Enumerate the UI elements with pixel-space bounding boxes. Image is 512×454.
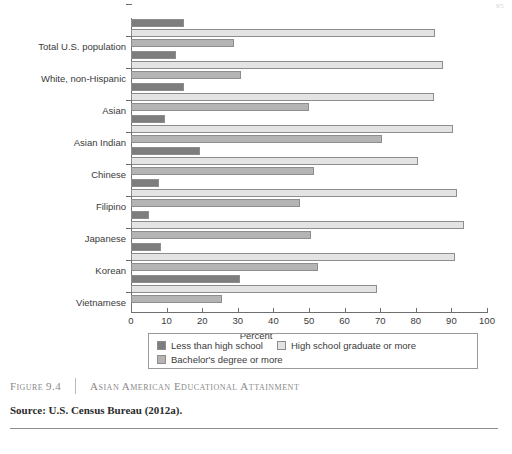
figure-caption: Figure 9.4 Asian American Educational At… — [10, 378, 502, 394]
bar — [131, 157, 418, 165]
y-axis-tick — [126, 260, 132, 261]
legend-label: Less than high school — [171, 340, 263, 351]
x-axis-tick — [309, 308, 310, 313]
x-axis-tick-label: 80 — [411, 315, 422, 326]
y-axis-tick — [126, 132, 132, 133]
y-axis-label: Asian Indian — [6, 137, 126, 148]
footer-rule — [10, 428, 498, 429]
figure-number: Figure 9.4 — [10, 380, 61, 392]
figure-title: Asian American Educational Attainment — [90, 380, 299, 392]
y-axis-labels: Total U.S. populationWhite, non-Hispanic… — [0, 28, 126, 328]
x-axis-tick-label: 20 — [197, 315, 208, 326]
y-axis-label: White, non-Hispanic — [6, 73, 126, 84]
x-axis-tick — [380, 308, 381, 313]
bar — [131, 167, 314, 175]
bar — [131, 125, 453, 133]
bar-group — [131, 242, 487, 274]
x-axis-tick — [451, 308, 452, 313]
bar — [131, 103, 309, 111]
y-axis-label: Filipino — [6, 201, 126, 212]
x-axis-tick — [167, 308, 168, 313]
x-axis-tick — [202, 308, 203, 313]
bar-group — [131, 82, 487, 114]
x-axis-tick — [345, 308, 346, 313]
y-axis-tick — [126, 36, 132, 37]
x-axis-tick-label: 50 — [304, 315, 315, 326]
figure-source: Source: U.S. Census Bureau (2012a). — [10, 404, 182, 416]
legend-swatch-icon — [277, 341, 286, 350]
bar — [131, 263, 318, 271]
y-axis-tick — [126, 228, 132, 229]
x-axis-tick — [273, 308, 274, 313]
legend-label: Bachelor's degree or more — [171, 354, 283, 365]
bar — [131, 135, 382, 143]
bar — [131, 189, 457, 197]
y-axis-label: Vietnamese — [6, 297, 126, 308]
bar — [131, 29, 435, 37]
y-axis-tick — [126, 100, 132, 101]
y-axis-label: Asian — [6, 105, 126, 116]
legend-row-1: Less than high school High school gradua… — [157, 338, 469, 352]
bar — [131, 115, 165, 123]
x-axis-tick-label: 90 — [446, 315, 457, 326]
figure-page: 95 Total U.S. populationWhite, non-Hispa… — [0, 0, 512, 454]
x-axis-tick — [416, 308, 417, 313]
x-axis-tick — [487, 308, 488, 313]
legend-swatch-icon — [157, 341, 166, 350]
x-axis-tick-label: 10 — [161, 315, 172, 326]
bar-group — [131, 18, 487, 50]
x-axis-tick — [238, 308, 239, 313]
legend-row-2: Bachelor's degree or more — [157, 352, 469, 366]
bar-chart: Total U.S. populationWhite, non-Hispanic… — [0, 14, 512, 314]
y-axis-label: Japanese — [6, 233, 126, 244]
x-axis-tick-label: 30 — [233, 315, 244, 326]
y-axis-label: Korean — [6, 265, 126, 276]
bar — [131, 243, 161, 251]
x-axis-tick-label: 0 — [128, 315, 133, 326]
bar-group — [131, 50, 487, 82]
x-axis-tick-label: 100 — [479, 315, 495, 326]
y-axis-label: Total U.S. population — [6, 41, 126, 52]
bar-group — [131, 146, 487, 178]
bar — [131, 285, 377, 293]
x-axis-tick — [131, 308, 132, 313]
bar-group — [131, 210, 487, 242]
bar — [131, 71, 241, 79]
bar — [131, 231, 311, 239]
bar — [131, 211, 149, 219]
legend-item-less-than-high-school: Less than high school — [157, 340, 263, 351]
bar-group — [131, 178, 487, 210]
bar — [131, 295, 222, 303]
y-axis-tick — [126, 68, 132, 69]
bar — [131, 199, 300, 207]
y-axis-tick — [126, 4, 132, 5]
bar — [131, 179, 159, 187]
bar-group — [131, 274, 487, 306]
legend-swatch-icon — [157, 355, 166, 364]
bar — [131, 19, 184, 27]
bar — [131, 93, 434, 101]
bar-group — [131, 114, 487, 146]
bar — [131, 253, 455, 261]
caption-divider — [75, 378, 76, 394]
legend-item-high-school-graduate-or-more: High school graduate or more — [277, 340, 416, 351]
y-axis-label: Chinese — [6, 169, 126, 180]
x-axis-tick-label: 40 — [268, 315, 279, 326]
chart-legend: Less than high school High school gradua… — [148, 333, 478, 369]
y-axis-tick — [126, 196, 132, 197]
legend-item-bachelors-degree-or-more: Bachelor's degree or more — [157, 354, 283, 365]
x-axis-tick-label: 70 — [375, 315, 386, 326]
x-axis-tick-label: 60 — [339, 315, 350, 326]
y-axis-tick — [126, 164, 132, 165]
bar — [131, 51, 176, 59]
bar — [131, 221, 464, 229]
bar — [131, 39, 234, 47]
y-axis-tick — [126, 292, 132, 293]
bar — [131, 61, 443, 69]
bar — [131, 275, 240, 283]
legend-label: High school graduate or more — [291, 340, 416, 351]
bar — [131, 83, 184, 91]
bar — [131, 147, 200, 155]
page-number: 95 — [496, 2, 504, 10]
